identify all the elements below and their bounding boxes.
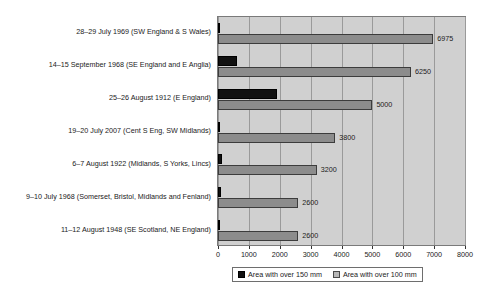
- x-tick-label-0: 0: [216, 250, 220, 259]
- bar-value-label-3: 3800: [339, 133, 355, 143]
- bar-value-label-6: 2600: [302, 231, 318, 241]
- x-tick-label-5000: 5000: [364, 250, 380, 259]
- legend-label-1: Area with over 100 mm: [343, 270, 417, 279]
- category-label-3: 19–20 July 2007 (Cent S Eng, SW Midlands…: [0, 126, 211, 135]
- gridline-4000: [342, 17, 343, 245]
- bar-value-label-5: 2600: [302, 198, 318, 208]
- x-tick-mark-2000: [280, 246, 281, 249]
- bar-150mm-5: [218, 187, 221, 197]
- x-tick-label-4000: 4000: [334, 250, 350, 259]
- bar-value-label-4: 3200: [321, 165, 337, 175]
- chart-legend: Area with over 150 mmArea with over 100 …: [232, 267, 423, 282]
- x-tick-mark-0: [218, 246, 219, 249]
- bar-150mm-0: [218, 23, 220, 33]
- category-label-4: 6–7 August 1922 (Midlands, S Yorks, Linc…: [0, 159, 211, 168]
- category-axis-labels: 28–29 July 1969 (SW England & S Wales)14…: [0, 16, 214, 246]
- bar-150mm-2: [218, 89, 277, 99]
- bar-100mm-3: [218, 133, 335, 143]
- bar-150mm-3: [218, 122, 220, 132]
- bar-chart: 28–29 July 1969 (SW England & S Wales)14…: [0, 0, 491, 296]
- bar-100mm-4: [218, 165, 317, 175]
- legend-swatch-icon-1: [333, 271, 340, 278]
- category-label-5: 9–10 July 1968 (Somerset, Bristol, Midla…: [0, 192, 211, 201]
- x-tick-mark-6000: [403, 246, 404, 249]
- category-label-2: 25–26 August 1912 (E England): [0, 93, 211, 102]
- bar-value-label-0: 6975: [437, 34, 453, 44]
- bar-value-label-2: 5000: [376, 100, 392, 110]
- gridline-1000: [249, 17, 250, 245]
- category-label-0: 28–29 July 1969 (SW England & S Wales): [0, 27, 211, 36]
- bar-100mm-6: [218, 231, 298, 241]
- x-axis: 010002000300040005000600070008000: [217, 246, 466, 262]
- x-tick-mark-1000: [249, 246, 250, 249]
- bar-150mm-4: [218, 154, 222, 164]
- legend-swatch-icon-0: [238, 271, 245, 278]
- legend-entry-1: Area with over 100 mm: [333, 270, 417, 279]
- x-tick-mark-8000: [465, 246, 466, 249]
- x-tick-label-8000: 8000: [457, 250, 473, 259]
- x-tick-mark-4000: [342, 246, 343, 249]
- gridline-5000: [372, 17, 373, 245]
- legend-entry-0: Area with over 150 mm: [238, 270, 322, 279]
- x-tick-label-2000: 2000: [272, 250, 288, 259]
- category-label-1: 14–15 September 1968 (SE England and E A…: [0, 60, 211, 69]
- category-label-6: 11–12 August 1948 (SE Scotland, NE Engla…: [0, 225, 211, 234]
- x-tick-label-3000: 3000: [303, 250, 319, 259]
- bar-150mm-6: [218, 220, 220, 230]
- bar-150mm-1: [218, 56, 237, 66]
- bar-100mm-1: [218, 67, 411, 77]
- gridline-7000: [434, 17, 435, 245]
- bar-100mm-0: [218, 34, 433, 44]
- x-tick-mark-7000: [434, 246, 435, 249]
- x-tick-mark-3000: [311, 246, 312, 249]
- gridline-6000: [403, 17, 404, 245]
- x-tick-label-1000: 1000: [241, 250, 257, 259]
- bar-100mm-2: [218, 100, 372, 110]
- legend-label-0: Area with over 150 mm: [248, 270, 322, 279]
- gridline-2000: [280, 17, 281, 245]
- plot-inner: 6975625050003800320026002600: [218, 17, 465, 245]
- x-tick-mark-5000: [372, 246, 373, 249]
- x-tick-label-7000: 7000: [426, 250, 442, 259]
- gridline-8000: [465, 17, 466, 245]
- gridline-3000: [311, 17, 312, 245]
- plot-area: 6975625050003800320026002600: [217, 16, 466, 246]
- x-tick-label-6000: 6000: [395, 250, 411, 259]
- bar-value-label-1: 6250: [415, 67, 431, 77]
- bar-100mm-5: [218, 198, 298, 208]
